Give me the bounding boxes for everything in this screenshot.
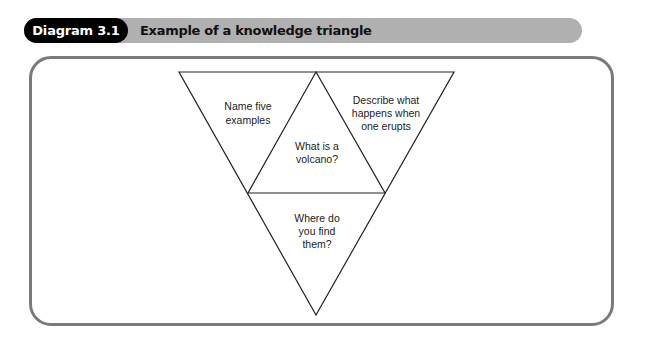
center-line-2: volcano? <box>296 153 338 165</box>
top-right-line-2: happens when <box>352 107 420 119</box>
top-right-line-3: one erupts <box>361 120 411 132</box>
section-bottom: Where do you find them? <box>294 212 340 250</box>
section-center: What is a volcano? <box>295 140 339 165</box>
section-top-right: Describe what happens when one erupts <box>352 94 420 132</box>
inner-triangle <box>248 72 385 193</box>
bottom-line-1: Where do <box>294 212 340 224</box>
top-right-line-1: Describe what <box>353 94 420 106</box>
bottom-line-3: them? <box>302 238 331 250</box>
bottom-line-2: you find <box>299 225 336 237</box>
section-top-left: Name five examples <box>224 100 271 126</box>
center-line-1: What is a <box>295 140 339 152</box>
knowledge-triangle: Name five examples Describe what happens… <box>0 0 648 345</box>
top-left-line-2: examples <box>226 114 271 126</box>
top-left-line-1: Name five <box>224 100 271 112</box>
